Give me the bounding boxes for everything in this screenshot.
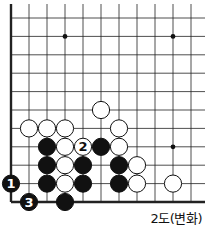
white-stone xyxy=(56,175,73,192)
diagram-caption: 2도(변화) xyxy=(151,208,202,227)
move-number-label: 2 xyxy=(78,139,87,154)
move-number-label: 1 xyxy=(6,176,15,191)
star-point xyxy=(63,34,68,39)
black-stone xyxy=(92,138,109,155)
white-stone xyxy=(164,175,181,192)
white-stone xyxy=(110,120,127,137)
black-stone xyxy=(38,157,55,174)
black-stone xyxy=(38,175,55,192)
star-point xyxy=(171,34,176,39)
go-board-diagram: 213 xyxy=(0,0,210,229)
black-stone xyxy=(110,157,127,174)
move-number-label: 3 xyxy=(24,195,33,210)
black-stone xyxy=(74,157,91,174)
white-stone xyxy=(38,120,55,137)
white-stone xyxy=(110,138,127,155)
white-stone xyxy=(20,120,37,137)
black-stone xyxy=(110,175,127,192)
white-stone xyxy=(128,157,145,174)
white-stone xyxy=(56,157,73,174)
white-stone xyxy=(92,101,109,118)
white-stone xyxy=(128,175,145,192)
white-stone xyxy=(56,120,73,137)
star-point xyxy=(171,144,176,149)
black-stone xyxy=(38,138,55,155)
black-stone xyxy=(74,175,91,192)
black-stone xyxy=(56,193,73,210)
white-stone xyxy=(56,138,73,155)
